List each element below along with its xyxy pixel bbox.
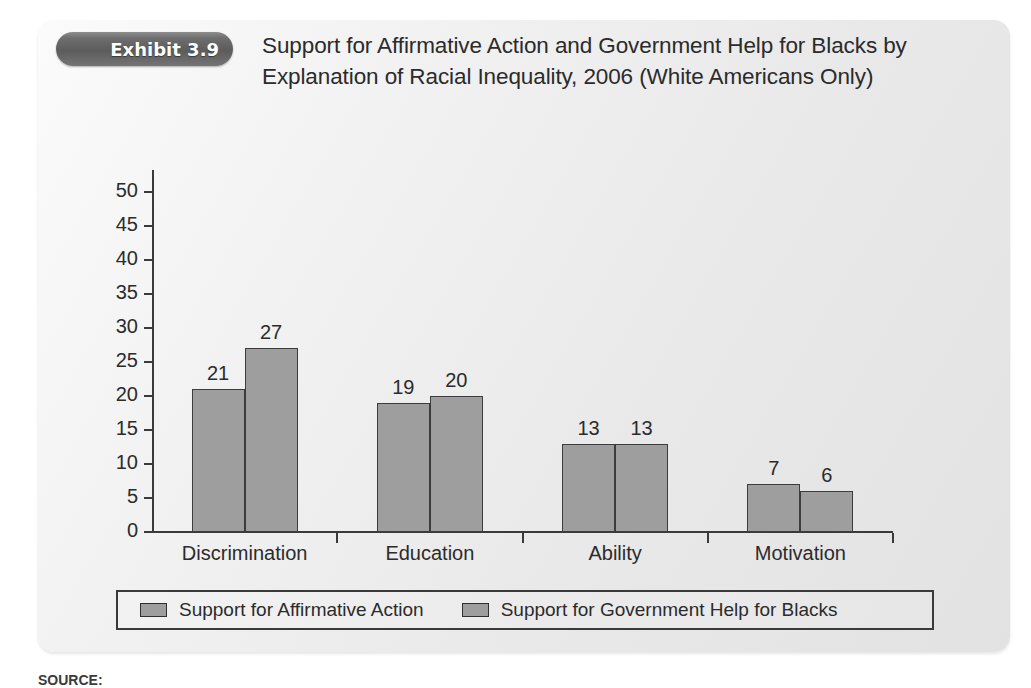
y-tick-label: 15 [98, 417, 138, 440]
exhibit-panel: Exhibit 3.9 Support for Affirmative Acti… [38, 20, 1010, 652]
y-tick-label: 25 [98, 349, 138, 372]
y-tick-label: 10 [98, 451, 138, 474]
y-tick-label: 5 [98, 485, 138, 508]
bar [430, 396, 483, 532]
bar-value-label: 6 [799, 464, 855, 487]
legend-entry-affirmative-action: Support for Affirmative Action [140, 599, 424, 621]
y-tick-label: 45 [98, 213, 138, 236]
bar [800, 491, 853, 532]
bar-value-label: 13 [614, 417, 670, 440]
y-tick-label: 30 [98, 315, 138, 338]
bar-value-label: 20 [428, 369, 484, 392]
exhibit-badge-label: Exhibit 3.9 [110, 39, 219, 60]
y-tick-mark [144, 531, 152, 533]
y-tick-label: 35 [98, 281, 138, 304]
bar [562, 444, 615, 532]
y-tick-mark [144, 497, 152, 499]
y-tick-mark [144, 361, 152, 363]
bar-value-label: 21 [190, 362, 246, 385]
chart-legend: Support for Affirmative Action Support f… [116, 590, 934, 630]
bar-value-label: 19 [375, 376, 431, 399]
legend-label: Support for Affirmative Action [179, 599, 424, 621]
bar [615, 444, 668, 532]
bar-value-label: 13 [561, 417, 617, 440]
y-tick-mark [144, 191, 152, 193]
exhibit-header: Exhibit 3.9 Support for Affirmative Acti… [38, 20, 1010, 140]
bar [245, 348, 298, 532]
source-note: SOURCE: [38, 672, 998, 688]
legend-label: Support for Government Help for Blacks [501, 599, 838, 621]
source-prefix: SOURCE: [38, 672, 103, 688]
y-tick-mark [144, 463, 152, 465]
bar-value-label: 27 [243, 321, 299, 344]
y-tick-mark [144, 225, 152, 227]
bar [747, 484, 800, 532]
legend-swatch-icon [462, 603, 489, 617]
bar-chart: 05101520253035404550 21271920131376 Disc… [38, 142, 1010, 652]
y-tick-label: 50 [98, 179, 138, 202]
y-tick-mark [144, 395, 152, 397]
y-tick-label: 20 [98, 383, 138, 406]
y-tick-mark [144, 327, 152, 329]
y-axis-line [152, 170, 154, 533]
y-tick-mark [144, 429, 152, 431]
plot-area: 05101520253035404550 21271920131376 Disc… [38, 142, 1010, 602]
bar [377, 403, 430, 532]
legend-entry-government-help: Support for Government Help for Blacks [462, 599, 838, 621]
exhibit-badge: Exhibit 3.9 [56, 32, 233, 66]
y-tick-label: 0 [98, 519, 138, 542]
legend-swatch-icon [140, 603, 167, 617]
bar [192, 389, 245, 532]
bar-value-label: 7 [746, 457, 802, 480]
y-tick-mark [144, 293, 152, 295]
exhibit-title: Support for Affirmative Action and Gover… [262, 30, 962, 92]
y-tick-mark [144, 259, 152, 261]
category-label: Motivation [690, 542, 910, 565]
y-tick-label: 40 [98, 247, 138, 270]
